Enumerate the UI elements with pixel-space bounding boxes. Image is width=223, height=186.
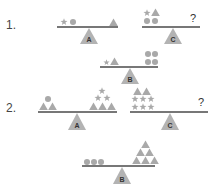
circle-icon [98,159,104,165]
unknown-mark: ? [198,96,204,108]
circle-icon [145,51,151,57]
star-icon [103,94,110,101]
triangle-icon [39,102,48,110]
star-icon [60,18,67,25]
triangle-icon [98,102,107,110]
circle-icon [45,96,51,102]
balance-puzzle-diagram: A C ? B A [0,0,223,186]
star-icon [147,95,154,102]
circle-icon [70,19,76,25]
p1-balance-b: B [100,51,158,84]
fulcrum-label: B [119,176,124,183]
star-icon [94,94,101,101]
fulcrum-label: C [170,36,175,43]
fulcrum-label: B [127,76,132,83]
star-icon [139,95,146,102]
triangle-icon [132,156,141,164]
p2-balance-a: A [38,87,117,130]
p2-balance-b: B [82,140,159,184]
triangle-icon [109,18,118,26]
star-icon [143,9,150,16]
p2-balance-c: C ? [130,87,208,130]
star-icon [131,95,138,102]
circle-icon [91,159,97,165]
triangle-icon [145,148,154,156]
triangle-icon [141,156,150,164]
star-icon [131,103,138,110]
circle-icon [152,51,158,57]
star-icon [98,87,105,94]
triangle-icon [142,87,151,95]
circle-icon [84,159,90,165]
triangle-icon [151,8,160,16]
p1-balance-a: A [57,18,118,44]
p1-balance-c: C ? [142,8,200,44]
fulcrum-label: A [86,36,91,43]
triangle-icon [107,102,116,110]
triangle-icon [141,140,150,148]
triangle-icon [150,156,159,164]
circle-icon [152,18,158,24]
triangle-icon [89,102,98,110]
star-icon [139,103,146,110]
triangle-icon [48,102,57,110]
fulcrum-label: A [74,122,79,129]
circle-icon [145,59,151,65]
circle-icon [152,59,158,65]
circle-icon [144,18,150,24]
triangle-icon [110,57,119,65]
star-icon [147,103,154,110]
fulcrum-label: C [167,122,172,129]
unknown-mark: ? [190,12,196,24]
triangle-icon [133,87,142,95]
star-icon [103,59,109,65]
triangle-icon [136,148,145,156]
